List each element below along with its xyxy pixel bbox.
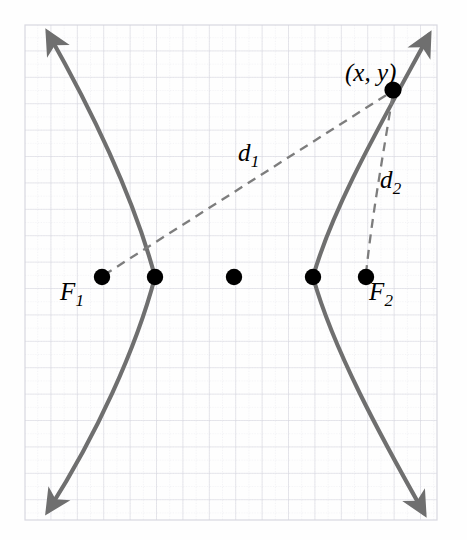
label-distance-2-text: d (380, 166, 393, 193)
label-focus-2-subscript: 2 (385, 292, 394, 309)
label-focus-2-text: F (369, 278, 384, 305)
label-distance-1-text: d (238, 139, 251, 166)
label-distance-1: d1 (238, 140, 259, 165)
label-point-xy: (x, y) (345, 60, 396, 85)
point-focus-1 (94, 269, 110, 285)
point-vertex-left (147, 269, 163, 285)
label-focus-1-text: F (60, 278, 75, 305)
label-focus-1-subscript: 1 (76, 292, 85, 309)
hyperbola-figure: F1 F2 d1 d2 (x, y) (0, 0, 467, 540)
figure-canvas (0, 0, 467, 540)
label-distance-1-subscript: 1 (251, 153, 260, 170)
label-focus-2: F2 (369, 279, 393, 304)
point-vertex-right (305, 269, 321, 285)
label-focus-1: F1 (60, 279, 84, 304)
point-center (226, 269, 242, 285)
label-distance-2-subscript: 2 (393, 180, 402, 197)
label-distance-2: d2 (380, 167, 401, 192)
